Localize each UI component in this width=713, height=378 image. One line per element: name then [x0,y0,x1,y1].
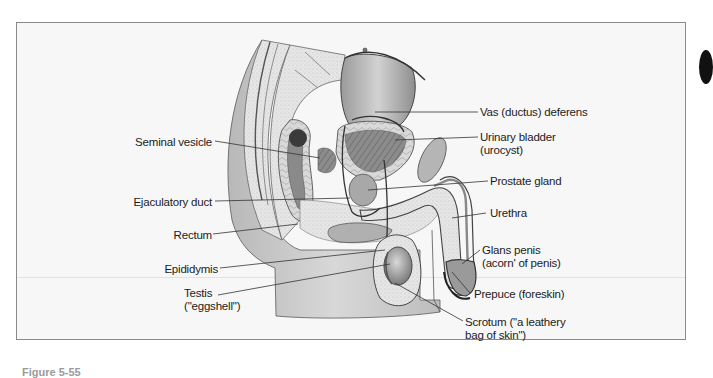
label-seminal-vesicle: Seminal vesicle [108,136,212,149]
label-urethra: Urethra [490,207,527,220]
label-rectum: Rectum [140,229,212,242]
label-ejaculatory-duct: Ejaculatory duct [100,196,212,209]
label-testis-line1: Testis [184,287,240,300]
label-urinary-bladder: Urinary bladder (urocyst) [480,131,556,157]
label-testis-line2: ("eggshell") [184,300,240,313]
label-glans-penis: Glans penis (acorn' of penis) [482,244,561,270]
label-epididymis: Epididymis [140,263,218,276]
label-glans-penis-line2: (acorn' of penis) [482,257,561,270]
label-scrotum-line1: Scrotum ("a leathery [465,316,565,329]
label-prepuce: Prepuce (foreskin) [474,288,564,301]
label-urinary-bladder-line1: Urinary bladder [480,131,556,144]
figure-caption: Figure 5-55 [22,366,81,378]
label-glans-penis-line1: Glans penis [482,244,561,257]
label-testis: Testis ("eggshell") [184,287,240,313]
label-urinary-bladder-line2: (urocyst) [480,144,556,157]
label-vas-deferens: Vas (ductus) deferens [480,106,587,119]
label-scrotum-line2: bag of skin") [465,329,565,342]
label-scrotum: Scrotum ("a leathery bag of skin") [465,316,565,342]
label-prostate-gland: Prostate gland [490,175,561,188]
